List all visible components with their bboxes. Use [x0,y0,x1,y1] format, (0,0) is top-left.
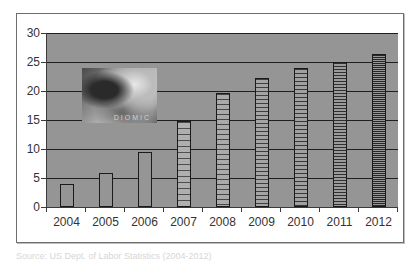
x-tick [319,207,320,212]
x-tick [397,207,398,212]
y-tick-label: 10 [18,143,40,155]
bar-2004 [60,184,74,207]
y-tick [41,149,47,150]
y-tick [41,178,47,179]
x-tick-label: 2005 [87,215,125,229]
bar-2005 [99,173,113,207]
y-tick [41,91,47,92]
y-tick [41,33,47,34]
bar-2010 [294,68,308,207]
bar-2012 [372,54,386,207]
bar-2009 [255,78,269,207]
x-tick-label: 2012 [360,215,398,229]
y-tick-label: 0 [18,201,40,213]
y-tick-label: 5 [18,172,40,184]
y-tick-label: 20 [18,85,40,97]
bar-2006 [138,152,152,207]
x-tick-label: 2008 [204,215,242,229]
x-tick-label: 2006 [126,215,164,229]
x-axis-line [46,207,398,208]
x-tick-label: 2011 [321,215,359,229]
x-tick [46,207,47,212]
x-tick [124,207,125,212]
gridline [47,33,398,34]
x-tick [241,207,242,212]
bar-2007 [177,121,191,207]
x-tick [163,207,164,212]
x-tick [202,207,203,212]
bar-2011 [333,62,347,207]
y-tick [41,120,47,121]
y-tick-label: 30 [18,27,40,39]
x-tick-label: 2004 [48,215,86,229]
x-tick-label: 2009 [243,215,281,229]
source-caption: Source: US Dept. of Labor Statistics (20… [16,251,212,261]
x-tick [358,207,359,212]
y-tick-label: 15 [18,114,40,126]
x-tick-label: 2007 [165,215,203,229]
y-tick-label: 25 [18,56,40,68]
x-tick [280,207,281,212]
photo-caption: DIOMIC [82,114,157,121]
x-tick [85,207,86,212]
y-tick [41,62,47,63]
x-tick-label: 2010 [282,215,320,229]
embedded-photo: DIOMIC [82,68,157,123]
bar-2008 [216,93,230,207]
